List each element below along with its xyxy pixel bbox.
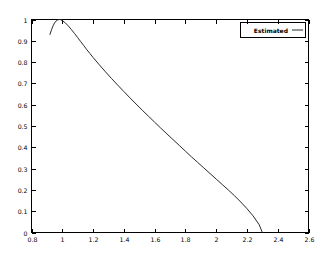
x-tick-label: 2.4 (274, 236, 284, 243)
legend-label-estimated: Estimated (254, 27, 288, 34)
y-tick-label: 0.7 (18, 80, 28, 87)
x-tick-label: 2 (215, 236, 219, 243)
x-tick-label: 0.8 (28, 236, 38, 243)
chart-figure: 00.10.20.30.40.50.60.70.80.91 0.811.21.4… (0, 0, 323, 259)
y-tick-label: 0.6 (18, 102, 28, 109)
x-tick-label: 1.2 (89, 236, 99, 243)
x-tick-label: 1.6 (151, 236, 161, 243)
y-tick-label: 0.9 (18, 38, 28, 45)
x-tick-label: 1.8 (181, 236, 191, 243)
y-tick-label: 0.2 (18, 187, 28, 194)
y-tick-label: 0.5 (18, 123, 28, 130)
chart-background (0, 0, 323, 259)
x-tick-label: 2.6 (305, 236, 315, 243)
x-tick-label: 2.2 (243, 236, 253, 243)
line-chart: 00.10.20.30.40.50.60.70.80.91 0.811.21.4… (0, 0, 323, 259)
x-tick-label: 1.4 (120, 236, 130, 243)
y-tick-label: 0.8 (18, 59, 28, 66)
x-tick-label: 1 (61, 236, 65, 243)
y-tick-label: 0.1 (18, 208, 28, 215)
y-tick-label: 1 (24, 17, 28, 24)
y-tick-label: 0.3 (18, 166, 28, 173)
y-tick-label: 0.4 (18, 144, 28, 151)
